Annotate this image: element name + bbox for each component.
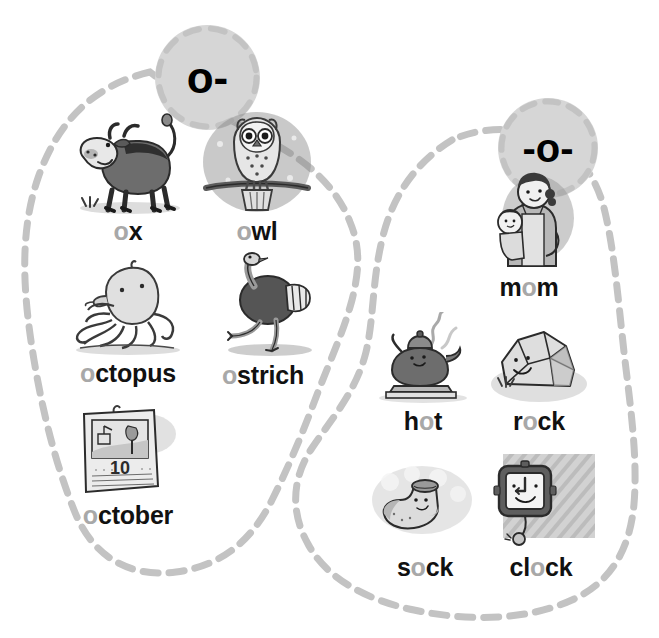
word-label: october [54,501,202,530]
kettle-illustration [368,312,478,406]
owl-illustration [198,108,316,216]
word-rest: ctober [98,501,173,529]
rock-illustration [484,312,594,406]
worksheet-page: o- -o- [0,0,659,638]
word-label: owl [193,217,321,246]
highlight-letter: o [222,361,237,389]
mom-illustration [472,170,586,272]
highlight-letter: o [236,217,251,245]
item-octopus: octopus [54,258,202,388]
word-rest: ck [538,407,565,435]
highlight-letter: o [530,553,545,581]
item-ostrich: ostrich [198,252,328,390]
word-rest: strich [237,361,304,389]
word-rest: x [129,217,143,245]
word-label: hot [368,407,478,436]
sock-illustration [368,456,482,552]
word-rest: m [537,273,559,301]
word-rest: ck [426,553,453,581]
item-hot: hot [368,312,478,436]
clock-illustration [485,452,597,552]
item-ox: ox [64,112,192,246]
highlight-letter: o [521,273,536,301]
word-before: m [499,273,521,301]
word-before: h [404,407,419,435]
word-label: clock [478,553,604,582]
highlight-letter: o [80,359,95,387]
highlight-letter: o [419,407,434,435]
octopus-illustration [54,258,202,358]
ox-illustration [64,112,192,216]
highlight-letter: o [411,553,426,581]
word-rest: t [434,407,442,435]
word-before: cl [510,553,530,581]
group-label-text: -o- [522,128,573,168]
word-label: rock [482,407,596,436]
word-label: mom [462,273,596,302]
word-label: sock [366,553,484,582]
group-label-text: o- [187,56,229,100]
word-rest: wl [252,217,278,245]
word-before: r [513,407,523,435]
calendar-illustration: 10 [54,400,202,500]
item-owl: owl [193,108,321,246]
item-mom: mom [462,170,596,302]
highlight-letter: o [523,407,538,435]
word-before: s [397,553,411,581]
word-label: octopus [54,359,202,388]
item-sock: sock [366,456,484,582]
word-rest: ck [545,553,572,581]
item-october: 10 october [54,400,202,530]
ostrich-illustration [198,252,328,360]
word-rest: ctopus [95,359,176,387]
word-label: ox [64,217,192,246]
word-label: ostrich [198,361,328,390]
item-rock: rock [482,312,596,436]
item-clock: clock [478,452,604,582]
highlight-letter: o [83,501,98,529]
highlight-letter: o [114,217,129,245]
